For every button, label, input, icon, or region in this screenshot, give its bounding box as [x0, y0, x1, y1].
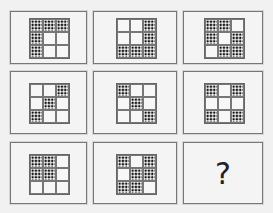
empty-cell — [218, 32, 231, 45]
empty-cell — [117, 168, 130, 181]
empty-cell — [56, 168, 69, 181]
dotted-cell — [130, 45, 143, 58]
dotted-cell — [205, 110, 218, 123]
empty-cell — [130, 110, 143, 123]
empty-cell — [56, 181, 69, 194]
dotted-cell — [130, 181, 143, 194]
pattern-grid — [116, 154, 157, 195]
empty-cell — [56, 45, 69, 58]
empty-cell — [130, 84, 143, 97]
dotted-cell — [30, 32, 43, 45]
empty-cell — [117, 110, 130, 123]
dotted-cell — [130, 97, 143, 110]
puzzle-panel-7 — [10, 142, 87, 204]
empty-cell — [231, 97, 244, 110]
empty-cell — [205, 45, 218, 58]
empty-cell — [117, 32, 130, 45]
puzzle-panel-1 — [10, 11, 87, 64]
empty-cell — [56, 97, 69, 110]
empty-cell — [143, 97, 156, 110]
dotted-cell — [231, 84, 244, 97]
dotted-cell — [231, 110, 244, 123]
dotted-cell — [30, 155, 43, 168]
dotted-cell — [56, 19, 69, 32]
dotted-cell — [143, 155, 156, 168]
empty-cell — [130, 155, 143, 168]
dotted-cell — [218, 19, 231, 32]
empty-cell — [43, 45, 56, 58]
empty-cell — [43, 84, 56, 97]
dotted-cell — [231, 45, 244, 58]
puzzle-panel-6 — [183, 71, 263, 134]
dotted-cell — [117, 45, 130, 58]
dotted-cell — [117, 155, 130, 168]
empty-cell — [43, 181, 56, 194]
answer-panel: ? — [183, 142, 263, 204]
dotted-cell — [143, 168, 156, 181]
puzzle-panel-2 — [93, 11, 177, 64]
pattern-grid — [29, 154, 70, 195]
empty-cell — [205, 97, 218, 110]
dotted-cell — [143, 45, 156, 58]
empty-cell — [218, 110, 231, 123]
empty-cell — [43, 110, 56, 123]
dotted-cell — [56, 84, 69, 97]
empty-cell — [56, 110, 69, 123]
dotted-cell — [231, 32, 244, 45]
empty-cell — [117, 97, 130, 110]
empty-cell — [56, 155, 69, 168]
empty-cell — [218, 97, 231, 110]
dotted-cell — [43, 19, 56, 32]
pattern-grid — [116, 83, 157, 124]
dotted-cell — [43, 155, 56, 168]
dotted-cell — [143, 32, 156, 45]
dotted-cell — [130, 168, 143, 181]
empty-cell — [30, 97, 43, 110]
dotted-cell — [218, 45, 231, 58]
puzzle-panel-4 — [10, 71, 87, 134]
dotted-cell — [117, 84, 130, 97]
empty-cell — [56, 32, 69, 45]
puzzle-panel-5 — [93, 71, 177, 134]
empty-cell — [218, 84, 231, 97]
pattern-grid — [204, 18, 245, 59]
pattern-grid — [29, 18, 70, 59]
empty-cell — [130, 32, 143, 45]
empty-cell — [130, 19, 143, 32]
puzzle-panel-8 — [93, 142, 177, 204]
pattern-grid — [29, 83, 70, 124]
dotted-cell — [205, 19, 218, 32]
empty-cell — [43, 32, 56, 45]
dotted-cell — [30, 110, 43, 123]
empty-cell — [117, 19, 130, 32]
dotted-cell — [143, 110, 156, 123]
empty-cell — [143, 84, 156, 97]
dotted-cell — [143, 19, 156, 32]
empty-cell — [30, 84, 43, 97]
dotted-cell — [30, 168, 43, 181]
empty-cell — [231, 19, 244, 32]
pattern-grid — [204, 83, 245, 124]
pattern-grid — [116, 18, 157, 59]
puzzle-panel-3 — [183, 11, 263, 64]
dotted-cell — [117, 181, 130, 194]
dotted-cell — [205, 32, 218, 45]
dotted-cell — [30, 19, 43, 32]
question-mark: ? — [184, 143, 262, 203]
empty-cell — [30, 181, 43, 194]
dotted-cell — [30, 45, 43, 58]
dotted-cell — [43, 97, 56, 110]
empty-cell — [143, 181, 156, 194]
dotted-cell — [205, 84, 218, 97]
dotted-cell — [43, 168, 56, 181]
